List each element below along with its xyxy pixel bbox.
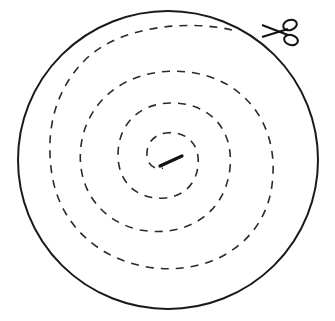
center-start-mark: [160, 156, 182, 166]
outer-circle: [18, 11, 318, 309]
dashed-spiral-cut-line: [50, 25, 273, 268]
scissors-icon: [262, 18, 299, 47]
diagram-svg: [0, 0, 335, 321]
spiral-diagram: Spiral cutting pattern: [0, 0, 335, 321]
